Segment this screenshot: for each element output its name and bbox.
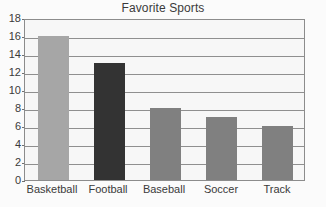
y-tick-label: 6 (0, 121, 21, 132)
y-tick-label: 18 (0, 13, 21, 24)
y-tick-label: 0 (0, 175, 21, 186)
x-tick-label: Track (249, 183, 305, 196)
x-tick-label: Baseball (136, 183, 192, 196)
x-tick-label: Football (80, 183, 136, 196)
y-tick-label: 14 (0, 49, 21, 60)
x-tick-label: Basketball (24, 183, 80, 196)
x-axis: BasketballFootballBaseballSoccerTrack (24, 183, 305, 203)
chart-screenshot: Favorite Sports 024681012141618 Basketba… (0, 0, 326, 207)
y-axis: 024681012141618 (0, 19, 21, 181)
y-tick-label: 12 (0, 67, 21, 78)
bar-soccer (206, 117, 237, 180)
y-tick-label: 4 (0, 139, 21, 150)
chart-title: Favorite Sports (0, 1, 326, 15)
y-tick-label: 10 (0, 85, 21, 96)
y-tick-mark (22, 181, 25, 182)
y-tick-label: 8 (0, 103, 21, 114)
x-tick-label: Soccer (193, 183, 249, 196)
y-tick-label: 16 (0, 31, 21, 42)
bar-basketball (38, 36, 69, 180)
bar-track (262, 126, 293, 180)
bar-baseball (150, 108, 181, 180)
y-tick-label: 2 (0, 157, 21, 168)
bar-football (94, 63, 125, 180)
plot-area (24, 19, 305, 181)
